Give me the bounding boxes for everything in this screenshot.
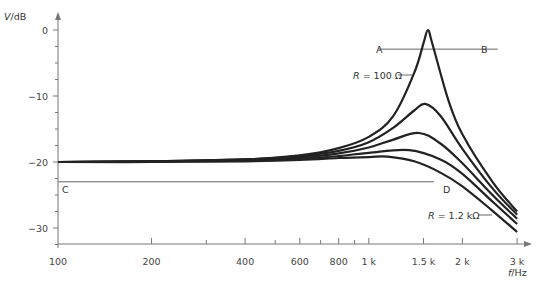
curves — [58, 30, 517, 232]
y-tick-label: −30 — [28, 223, 48, 234]
axis-labels: V/dB f/Hz A B C D R = 100 Ω R = 1.2 kΩ — [4, 11, 527, 278]
x-tick-label: 200 — [142, 256, 160, 267]
y-axis-arrow-icon — [55, 12, 61, 20]
x-axis-arrow-icon — [524, 241, 532, 247]
y-tick-label: 0 — [42, 25, 48, 36]
point-b-label: B — [481, 44, 488, 55]
annotation-lines — [58, 49, 498, 215]
point-a-label: A — [376, 44, 383, 55]
y-tick-label: −10 — [28, 91, 48, 102]
point-c-label: C — [62, 184, 69, 195]
x-tick-label: 400 — [236, 256, 254, 267]
x-tick-label: 100 — [49, 256, 67, 267]
point-d-label: D — [443, 184, 450, 195]
x-axis-label: f/Hz — [508, 267, 527, 278]
y-axis-label: V/dB — [4, 11, 26, 22]
frequency-response-chart: 0−10−20−301002004006008001 k1.5 k2 k3 k … — [0, 0, 543, 291]
r-100-label: R = 100 Ω — [353, 70, 402, 81]
x-tick-label: 600 — [291, 256, 309, 267]
x-tick-label: 3 k — [510, 256, 525, 267]
x-tick-label: 800 — [330, 256, 348, 267]
y-tick-label: −20 — [28, 157, 48, 168]
x-tick-label: 1 k — [362, 256, 377, 267]
x-tick-label: 2 k — [455, 256, 470, 267]
x-tick-label: 1.5 k — [412, 256, 436, 267]
r-1k2-label: R = 1.2 kΩ — [428, 210, 480, 221]
